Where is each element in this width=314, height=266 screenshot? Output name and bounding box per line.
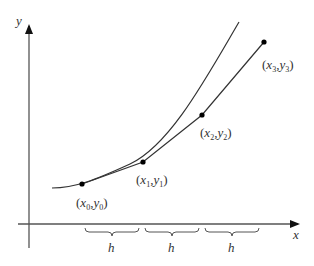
interval-label-1: h <box>108 241 115 254</box>
interval-label-3: h <box>228 241 235 254</box>
approximation-polyline <box>82 42 264 184</box>
interval-brace-2 <box>145 228 199 236</box>
x-axis-label: x <box>293 228 299 241</box>
point-0-label: (x0,y0) <box>76 196 108 212</box>
point-3-label: (x3,y3) <box>262 58 294 74</box>
interval-brace-1 <box>85 228 139 236</box>
point-2-label: (x2,y2) <box>200 126 232 142</box>
interval-brace-3 <box>205 228 259 236</box>
point-0 <box>79 181 84 186</box>
point-2 <box>199 112 204 117</box>
y-axis-label: y <box>16 14 22 27</box>
point-1-label: (x1,y1) <box>136 173 168 189</box>
interval-label-2: h <box>168 241 175 254</box>
point-1 <box>140 159 145 164</box>
point-3 <box>261 39 266 44</box>
numerical-method-diagram <box>0 0 314 266</box>
